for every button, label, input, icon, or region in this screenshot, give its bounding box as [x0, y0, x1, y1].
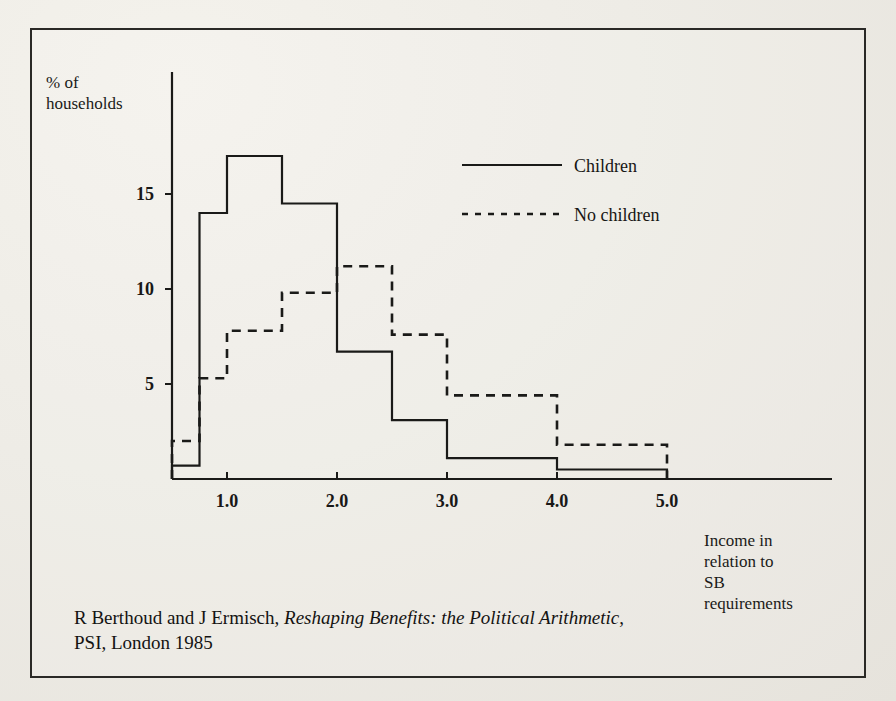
- caption-title: Reshaping Benefits: the Political Arithm…: [284, 607, 619, 628]
- x-tick-label: 1.0: [216, 491, 239, 511]
- y-tick-label: 5: [145, 374, 154, 394]
- x-tick-label: 5.0: [656, 491, 679, 511]
- figure-caption: R Berthoud and J Ermisch, Reshaping Bene…: [74, 605, 834, 655]
- scanned-page-background: % of households Income in relation to SB…: [0, 0, 896, 701]
- legend-label-no-children: No children: [574, 205, 659, 225]
- caption-comma: ,: [619, 607, 624, 628]
- histogram-plot: 510151.02.03.04.05.0ChildrenNo children: [32, 30, 868, 680]
- bleed-through-artifact: [26, 2, 50, 22]
- legend-label-children: Children: [574, 156, 637, 176]
- series-no-children: [172, 266, 667, 479]
- y-tick-label: 15: [136, 184, 154, 204]
- chart-canvas: 510151.02.03.04.05.0ChildrenNo children: [32, 30, 868, 680]
- y-tick-label: 10: [136, 279, 154, 299]
- x-tick-label: 4.0: [546, 491, 569, 511]
- x-tick-label: 3.0: [436, 491, 459, 511]
- caption-author: R Berthoud and J Ermisch,: [74, 607, 284, 628]
- x-tick-label: 2.0: [326, 491, 349, 511]
- figure-border: % of households Income in relation to SB…: [30, 28, 866, 678]
- caption-publisher: PSI, London 1985: [74, 632, 213, 653]
